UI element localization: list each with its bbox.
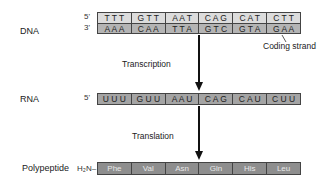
amino-acid: Val — [132, 163, 166, 174]
amino-acid: Phe — [98, 163, 132, 174]
n-terminus: H₂N– — [77, 164, 96, 173]
codon: C A U — [233, 94, 267, 104]
dna-coding-strand: A A A C A A T T A G T C G T A G A A — [97, 23, 301, 34]
codon: C A T — [233, 13, 267, 23]
codon: C A G — [199, 13, 233, 23]
codon: G T A — [233, 24, 267, 33]
amino-acid: His — [233, 163, 267, 174]
codon: T T T — [98, 13, 132, 23]
codon: G A A — [267, 24, 300, 33]
arrow-down-icon — [195, 151, 203, 160]
translation-label: Translation — [132, 131, 174, 141]
codon: C A A — [132, 24, 166, 33]
codon: G T C — [199, 24, 233, 33]
codon: A A T — [166, 13, 200, 23]
dna-top-5prime: 5' — [84, 12, 90, 21]
codon: C T T — [267, 13, 300, 23]
codon: C U U — [267, 94, 300, 104]
transcription-label: Transcription — [122, 59, 171, 69]
translation-arrow-shaft — [198, 106, 200, 152]
polypeptide-label: Polypeptide — [22, 163, 69, 173]
arrow-down-icon — [195, 82, 203, 91]
codon: G T T — [132, 13, 166, 23]
dna-bottom-3prime: 3' — [84, 23, 90, 32]
codon: A A U — [166, 94, 200, 104]
polypeptide-chain: Phe Val Asn Gln His Leu — [97, 162, 301, 175]
dna-template-strand: T T T G T T A A T C A G C A T C T T — [97, 12, 301, 23]
codon: G U U — [132, 94, 166, 104]
codon: C A G — [199, 94, 233, 104]
amino-acid: Asn — [166, 163, 200, 174]
coding-strand-label: Coding strand — [263, 41, 316, 51]
codon: A A A — [98, 24, 132, 33]
transcription-arrow-shaft — [198, 35, 200, 83]
rna-label: RNA — [20, 94, 39, 104]
codon: T T A — [166, 24, 200, 33]
dna-label: DNA — [20, 26, 39, 36]
codon: U U U — [98, 94, 132, 104]
rna-5prime: 5' — [84, 93, 90, 102]
rna-strand: U U U G U U A A U C A G C A U C U U — [97, 93, 301, 105]
amino-acid: Leu — [267, 163, 300, 174]
amino-acid: Gln — [199, 163, 233, 174]
